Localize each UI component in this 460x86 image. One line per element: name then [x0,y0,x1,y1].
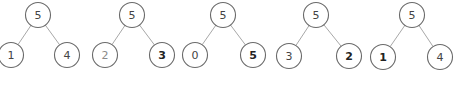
root-node: 5 [304,3,329,28]
edge-root-right [45,25,59,45]
root-node: 5 [120,3,145,28]
left-child-node-label: 3 [286,50,293,63]
tree-diagram-canvas: 514523505532514 [0,0,460,86]
right-child-node: 4 [428,45,453,70]
binary-trees-diagram: 514523505532514 [0,0,460,86]
right-child-node-label: 4 [437,51,444,64]
edge-root-right [419,25,433,46]
right-child-node-label: 5 [249,49,257,62]
root-node: 5 [211,3,236,28]
edge-root-left [112,25,125,44]
left-child-node: 1 [0,43,24,68]
tree-2: 523 [93,3,175,68]
root-node-label: 5 [35,9,42,22]
left-child-node: 1 [371,45,396,70]
right-child-node-label: 3 [158,49,166,62]
root-node-label: 5 [129,9,136,22]
right-child-node-label: 2 [345,50,353,63]
right-child-node: 4 [55,43,80,68]
root-node-label: 5 [220,9,227,22]
root-node: 5 [26,3,51,28]
left-child-node: 3 [277,44,302,69]
left-child-node-label: 1 [379,51,387,64]
edge-root-left [296,25,309,45]
root-node-label: 5 [313,9,320,22]
root-node: 5 [400,3,425,28]
edge-root-left [202,25,216,45]
tree-5: 514 [371,3,453,70]
edge-root-left [390,25,405,46]
left-child-node: 0 [183,43,208,68]
tree-3: 505 [183,3,266,68]
edge-root-right [324,25,341,47]
left-child-node: 2 [93,43,118,68]
right-child-node-label: 4 [64,49,71,62]
right-child-node: 3 [150,43,175,68]
edge-root-right [140,25,155,45]
tree-1: 514 [0,3,80,68]
right-child-node: 5 [241,43,266,68]
left-child-node-label: 0 [192,49,199,62]
tree-4: 532 [277,3,362,69]
right-child-node: 2 [337,44,362,69]
root-node-label: 5 [409,9,416,22]
left-child-node-label: 1 [8,49,15,62]
edge-root-left [18,25,31,44]
left-child-node-label: 2 [102,49,109,62]
edge-root-right [231,25,246,45]
